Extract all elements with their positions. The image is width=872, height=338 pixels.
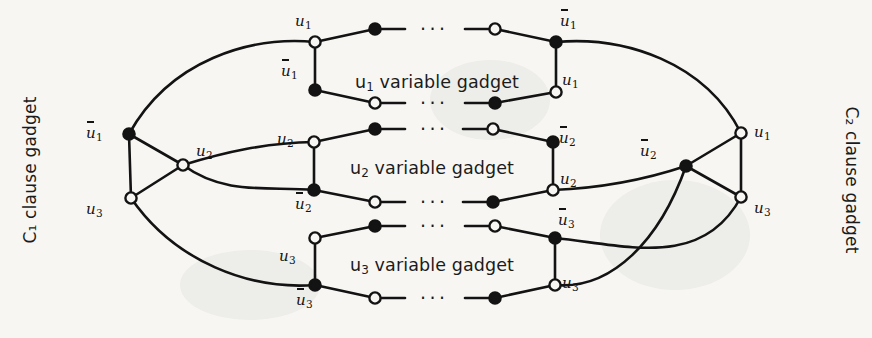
gadget-u3-label-bottom-left: u3 xyxy=(296,291,313,310)
gadget-u2-label-bottom-right: u2 xyxy=(560,170,577,189)
gadget-u2-bottom-left-filled xyxy=(308,184,319,195)
clause-right-node-1-filled xyxy=(680,160,691,171)
gadget-u3-bottom-right-open xyxy=(549,279,560,290)
gadget-u3-bottom-mid-right-filled xyxy=(489,292,500,303)
clause-left-node-label-0: u1 xyxy=(86,124,103,143)
gadget-u2-bottom-right-open xyxy=(547,184,558,195)
gadget-u2-label-bottom-left: u2 xyxy=(295,195,312,214)
gadget-u2-ellipsis-top: ··· xyxy=(420,120,449,139)
gadget-edge xyxy=(315,226,375,238)
clause-left-edge xyxy=(131,165,183,198)
gadget-u1-bottom-mid-right-filled xyxy=(489,97,500,108)
gadget-edge xyxy=(314,129,375,142)
gadget-u1-label-bottom-left: u1 xyxy=(281,62,298,81)
connector-curve xyxy=(131,198,315,286)
gadget-u2-bottom-mid-left-open xyxy=(369,196,380,207)
clause-left-node-label-1: u2 xyxy=(196,142,213,161)
gadget-u1-bottom-mid-left-open xyxy=(369,97,380,108)
gadget-u3-top-right-filled xyxy=(549,232,560,243)
gadget-u1-top-right-filled xyxy=(550,36,561,47)
gadget-u1-label-bottom-right: u1 xyxy=(562,71,579,90)
gadget-u2-label-top-right: u2 xyxy=(559,129,576,148)
gadget-u3-label-top-right: u3 xyxy=(558,211,575,230)
gadget-u3-top-mid-right-open xyxy=(489,220,500,231)
gadget-edge xyxy=(495,285,555,298)
clause-left-node-0-filled xyxy=(123,128,134,139)
clause-right-edge xyxy=(686,133,741,166)
gadget-u3-ellipsis-bottom: ··· xyxy=(420,289,449,308)
connector-curve xyxy=(183,165,314,190)
gadget-u3-label-bottom-right: u3 xyxy=(562,274,579,293)
gadget-u2-label-top-left: u2 xyxy=(277,130,294,149)
gadget-caption-u2: u2 variable gadget xyxy=(350,158,514,180)
gadget-u1-top-left-open xyxy=(309,36,320,47)
gadget-edge xyxy=(314,190,375,202)
clause-right-caption: C₂ clause gadget xyxy=(842,90,862,270)
gadget-edge xyxy=(315,29,375,42)
clause-right-node-label-1: u2 xyxy=(640,142,657,161)
clause-left-edge xyxy=(129,134,183,165)
gadget-u2-top-right-filled xyxy=(547,136,558,147)
gadget-edge xyxy=(315,285,375,298)
clause-right-node-0-open xyxy=(735,127,746,138)
clause-left-node-2-open xyxy=(125,192,136,203)
clause-right-node-label-2: u3 xyxy=(754,199,771,218)
gadget-edge xyxy=(493,129,553,142)
gadget-u2-top-mid-right-open xyxy=(487,123,498,134)
gadget-u2-top-mid-left-filled xyxy=(369,123,380,134)
connector-curve xyxy=(555,197,741,248)
gadget-u1-top-mid-right-open xyxy=(489,23,500,34)
gadget-caption-u1: u1 variable gadget xyxy=(355,72,519,94)
gadget-u3-top-left-open xyxy=(309,232,320,243)
gadget-u1-label-top-left: u1 xyxy=(295,12,312,31)
gadget-u1-bottom-left-filled xyxy=(309,84,320,95)
gadget-edge xyxy=(495,29,556,42)
gadget-u3-top-mid-left-filled xyxy=(369,220,380,231)
gadget-u3-label-top-left: u3 xyxy=(279,247,296,266)
clause-right-node-2-open xyxy=(735,191,746,202)
clause-left-node-label-2: u3 xyxy=(86,200,103,219)
clause-left-node-1-open xyxy=(177,159,188,170)
gadget-u1-ellipsis-bottom: ··· xyxy=(420,94,449,113)
clause-left-caption: C₁ clause gadget xyxy=(20,80,40,260)
gadget-u2-top-left-open xyxy=(308,136,319,147)
connector-curve xyxy=(556,41,741,133)
gadget-u1-top-mid-left-filled xyxy=(369,23,380,34)
clause-right-node-label-0: u1 xyxy=(754,123,771,142)
gadget-u3-ellipsis-top: ··· xyxy=(420,217,449,236)
gadget-u1-bottom-right-open xyxy=(550,86,561,97)
gadget-u3-bottom-left-filled xyxy=(309,279,320,290)
gadget-u1-ellipsis-top: ··· xyxy=(420,20,449,39)
gadget-edge xyxy=(493,190,553,202)
gadget-u2-bottom-mid-right-filled xyxy=(487,196,498,207)
connector-curve xyxy=(129,41,315,134)
gadget-edge xyxy=(495,226,555,238)
clause-right-edge xyxy=(686,166,741,197)
figure-canvas: u1u2u3u1u2u3u1u1···u1u1···u1 variable ga… xyxy=(0,0,872,338)
clause-left-edge xyxy=(129,134,131,198)
gadget-u1-label-top-right: u1 xyxy=(560,12,577,31)
gadget-u2-ellipsis-bottom: ··· xyxy=(420,193,449,212)
gadget-caption-u3: u3 variable gadget xyxy=(350,255,514,277)
gadget-u3-bottom-mid-left-open xyxy=(369,292,380,303)
